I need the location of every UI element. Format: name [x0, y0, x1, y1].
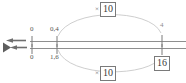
top-label-value: 0,4 [50, 26, 59, 33]
top-label-result: 4 [160, 22, 164, 29]
bottom-multiply-label: × 10 [95, 66, 116, 81]
bottom-result-box: 16 [154, 52, 170, 71]
bottom-label-zero: 0 [30, 54, 34, 61]
cursor-pointer-icon [3, 43, 11, 53]
bottom-times-icon: × [95, 70, 99, 77]
top-axis-arrow-head [6, 38, 13, 43]
top-times-icon: × [95, 6, 99, 13]
bottom-label-value: 1,6 [50, 54, 59, 61]
bottom-axis-arrow-head [10, 45, 17, 50]
bottom-result-value: 16 [154, 56, 170, 71]
top-factor-value: 10 [100, 2, 116, 17]
bottom-factor-value: 10 [100, 66, 116, 81]
top-multiply-label: × 10 [95, 2, 116, 17]
top-label-zero: 0 [30, 26, 34, 33]
top-multiply-arc [58, 15, 161, 36]
number-line-scaling-figure: 0 0,4 4 0 1,6 16 × 10 × 10 [0, 0, 186, 83]
